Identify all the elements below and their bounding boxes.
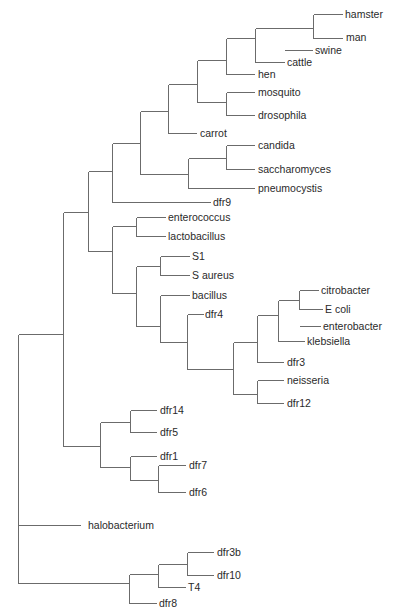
leaf-label: dfr4: [205, 308, 223, 320]
leaf-label: S1: [192, 250, 205, 262]
leaf-label: enterococcus: [168, 211, 230, 223]
leaf-label: hamster: [345, 8, 383, 20]
leaf-label: dfr3b: [217, 546, 241, 558]
leaf-label: neisseria: [287, 374, 329, 386]
leaf-label: dfr14: [160, 404, 184, 416]
leaf-label: dfr10: [217, 569, 241, 581]
leaf-label: mosquito: [258, 86, 301, 98]
leaf-label: halobacterium: [88, 519, 154, 531]
leaf-label: dfr5: [160, 426, 178, 438]
leaf-label: T4: [188, 581, 200, 593]
leaf-label: dfr1: [160, 450, 178, 462]
leaf-label: bacillus: [192, 289, 227, 301]
leaf-label: dfr7: [189, 459, 207, 471]
leaf-label: enterobacter: [323, 320, 382, 332]
leaf-label: dfr12: [287, 397, 311, 409]
leaf-label: citrobacter: [321, 284, 370, 296]
leaf-label: klebsiella: [307, 335, 350, 347]
leaf-label: drosophila: [258, 109, 306, 121]
leaf-label: dfr8: [159, 597, 177, 609]
leaf-label: man: [346, 31, 366, 43]
leaf-label: S aureus: [192, 269, 234, 281]
leaf-label: dfr3: [287, 356, 305, 368]
leaf-label: hen: [258, 68, 276, 80]
leaf-label: carrot: [200, 127, 227, 139]
leaf-label: candida: [258, 139, 295, 151]
leaf-label: pneumocystis: [258, 182, 322, 194]
leaf-label: E coli: [325, 303, 351, 315]
leaf-label: dfr9: [213, 196, 231, 208]
leaf-label: swine: [315, 44, 342, 56]
leaf-label: saccharomyces: [258, 163, 331, 175]
leaf-label: cattle: [287, 56, 312, 68]
leaf-label: lactobacillus: [168, 230, 225, 242]
leaf-label: dfr6: [189, 486, 207, 498]
